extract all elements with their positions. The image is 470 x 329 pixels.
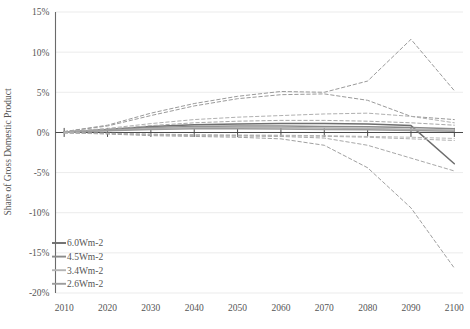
legend-label-6-0wm-2: 6.0Wm-2 (67, 238, 103, 248)
chart-legend: 6.0Wm-24.5Wm-23.4Wm-22.6Wm-2 (52, 238, 103, 289)
data-series-group (64, 39, 454, 268)
y-axis-title: Share of Gross Domestic Product (3, 88, 13, 216)
gdp-share-line-chart: 15%10%5%0%-5%-10%-15%-20% 20102020203020… (0, 0, 470, 329)
y-tick-label--10: -10% (29, 208, 50, 218)
x-tick-label-2080: 2080 (358, 303, 377, 313)
y-tick-label-0: 0% (37, 128, 50, 138)
gridlines-group (56, 12, 464, 293)
y-tick-label--5: -5% (34, 168, 50, 178)
x-tick-label-2100: 2100 (445, 303, 464, 313)
legend-label-4-5wm-2: 4.5Wm-2 (67, 252, 103, 262)
x-tick-label-2040: 2040 (185, 303, 204, 313)
x-tick-label-2020: 2020 (98, 303, 117, 313)
x-axis-tick-labels: 2010202020302040205020602070208020902100 (55, 303, 464, 313)
y-axis-title-text: Share of Gross Domestic Product (3, 88, 13, 216)
y-tick-label--15: -15% (29, 248, 50, 258)
y-tick-label-15: 15% (32, 7, 50, 17)
y-tick-label--20: -20% (29, 288, 50, 298)
series-line-6-0wm-2-upper (64, 39, 454, 131)
y-tick-label-5: 5% (37, 88, 50, 98)
y-tick-label-10: 10% (32, 48, 50, 58)
x-tick-label-2050: 2050 (228, 303, 247, 313)
x-tick-label-2070: 2070 (315, 303, 334, 313)
y-axis-tick-labels: 15%10%5%0%-5%-10%-15%-20% (29, 7, 50, 298)
x-tick-label-2010: 2010 (55, 303, 74, 313)
x-tick-label-2030: 2030 (141, 303, 160, 313)
legend-label-2-6wm-2: 2.6Wm-2 (67, 279, 103, 289)
chart-container: 15%10%5%0%-5%-10%-15%-20% 20102020203020… (0, 0, 470, 329)
x-tick-label-2060: 2060 (271, 303, 290, 313)
x-tick-label-2090: 2090 (401, 303, 420, 313)
legend-label-3-4wm-2: 3.4Wm-2 (67, 266, 103, 276)
